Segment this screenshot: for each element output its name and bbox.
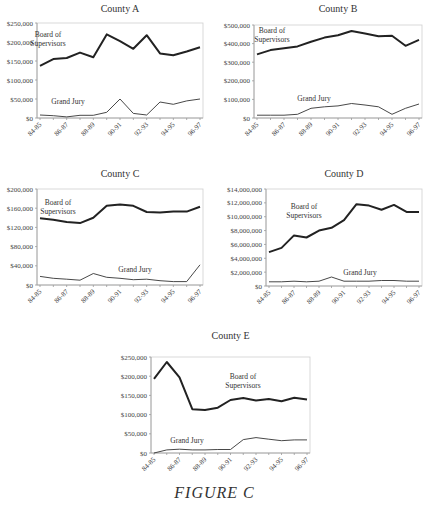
y-tick-label: $4,000,000 [231, 255, 263, 263]
x-tick-label: 86-87 [53, 287, 71, 305]
y-tick-label: $50,000 [124, 430, 147, 438]
chart-title: County C [101, 168, 140, 179]
x-tick-label: 92-93 [133, 287, 151, 305]
y-tick-label: $0 [26, 282, 34, 290]
chart-title: County D [324, 168, 363, 179]
x-tick-label: 88-89 [80, 120, 98, 138]
chart-county-b: County B$0$100,000$200,000$300,000$400,0… [214, 0, 429, 160]
x-tick-label: 94-95 [268, 455, 286, 473]
x-tick-label: 90-91 [330, 288, 348, 306]
x-tick-label: 92-93 [133, 120, 151, 138]
x-tick-label: 92-93 [242, 455, 260, 473]
x-tick-label: 96-97 [186, 120, 204, 138]
board-of-supervisors-label: Board of [259, 26, 286, 35]
board-of-supervisors-label: Supervisors [30, 39, 65, 48]
y-tick-label: $200,000 [224, 77, 251, 85]
y-tick-label: $6,000,000 [231, 241, 263, 249]
grand-jury-line [257, 104, 419, 116]
x-tick-label: 96-97 [186, 287, 204, 305]
board-of-supervisors-label: Supervisors [225, 381, 260, 390]
y-tick-label: $150,000 [121, 392, 148, 400]
y-tick-label: $120,000 [7, 224, 34, 232]
chart-title: County E [211, 330, 249, 341]
y-tick-label: $160,000 [7, 205, 34, 213]
board-of-supervisors-label: Board of [291, 202, 318, 211]
x-tick-label: 90-91 [324, 120, 342, 138]
y-tick-label: $250,000 [7, 20, 34, 28]
board-of-supervisors-label: Supervisors [40, 207, 75, 216]
y-tick-label: $8,000,000 [231, 227, 263, 235]
y-tick-label: $400,000 [224, 40, 251, 48]
x-tick-label: 94-95 [378, 120, 396, 138]
y-tick-label: $0 [255, 283, 263, 291]
y-tick-label: $500,000 [224, 22, 251, 30]
x-tick-label: 88-89 [305, 288, 323, 306]
board-of-supervisors-label: Board of [45, 198, 72, 207]
x-tick-label: 90-91 [106, 287, 124, 305]
y-tick-label: $200,000 [7, 186, 34, 194]
x-tick-label: 92-93 [351, 120, 369, 138]
chart-title: County A [101, 3, 140, 14]
x-tick-label: 84-85 [26, 120, 44, 138]
x-tick-label: 96-97 [405, 288, 423, 306]
x-tick-label: 88-89 [80, 287, 98, 305]
y-tick-label: $150,000 [7, 58, 34, 66]
chart-county-c: County C$0$40,000$80,000$120,000$160,000… [0, 165, 215, 325]
x-tick-label: 88-89 [297, 120, 315, 138]
y-tick-label: $0 [140, 450, 148, 458]
y-tick-label: $0 [243, 115, 251, 123]
x-tick-label: 84-85 [26, 287, 44, 305]
x-tick-label: 94-95 [160, 120, 178, 138]
x-tick-label: 96-97 [405, 120, 423, 138]
y-tick-label: $14,000,000 [227, 186, 263, 194]
grand-jury-line [269, 277, 419, 282]
y-tick-label: $300,000 [224, 59, 251, 67]
chart-county-e: County E$0$50,000$100,000$150,000$200,00… [100, 325, 330, 475]
y-tick-label: $0 [26, 115, 34, 123]
x-tick-label: 90-91 [217, 455, 235, 473]
y-tick-label: $250,000 [121, 354, 148, 362]
grand-jury-label: Grand Jury [51, 97, 85, 106]
x-tick-label: 86-87 [53, 120, 71, 138]
y-tick-label: $80,000 [10, 243, 33, 251]
y-tick-label: $100,000 [7, 77, 34, 85]
x-tick-label: 88-89 [191, 455, 209, 473]
x-tick-label: 90-91 [106, 120, 124, 138]
y-tick-label: $40,000 [10, 262, 33, 270]
y-tick-label: $100,000 [121, 411, 148, 419]
x-tick-label: 84-85 [243, 120, 261, 138]
y-tick-label: $50,000 [10, 96, 33, 104]
grand-jury-label: Grand Jury [343, 268, 377, 277]
chart-county-a: County A$0$50,000$100,000$150,000$200,00… [0, 0, 215, 160]
y-tick-label: $10,000,000 [227, 213, 263, 221]
y-tick-label: $2,000,000 [231, 269, 263, 277]
board-of-supervisors-label: Supervisors [254, 35, 289, 44]
board-of-supervisors-label: Board of [230, 372, 257, 381]
y-tick-label: $100,000 [224, 96, 251, 104]
y-tick-label: $12,000,000 [227, 199, 263, 207]
board-of-supervisors-label: Board of [35, 30, 62, 39]
board-of-supervisors-label: Supervisors [286, 211, 321, 220]
chart-title: County B [319, 3, 358, 14]
figure-caption: FIGURE C [0, 484, 429, 502]
grand-jury-label: Grand Jury [118, 265, 152, 274]
x-tick-label: 84-85 [140, 455, 158, 473]
grand-jury-label: Grand Jury [297, 94, 331, 103]
x-tick-label: 86-87 [270, 120, 288, 138]
chart-county-d: County D$0$2,000,000$4,000,000$6,000,000… [214, 165, 429, 325]
x-tick-label: 84-85 [255, 288, 273, 306]
x-tick-label: 86-87 [166, 455, 184, 473]
x-tick-label: 96-97 [293, 455, 311, 473]
y-tick-label: $200,000 [121, 373, 148, 381]
x-tick-label: 94-95 [380, 288, 398, 306]
x-tick-label: 94-95 [160, 287, 178, 305]
x-tick-label: 92-93 [355, 288, 373, 306]
x-tick-label: 86-87 [280, 288, 298, 306]
grand-jury-label: Grand Jury [170, 436, 204, 445]
